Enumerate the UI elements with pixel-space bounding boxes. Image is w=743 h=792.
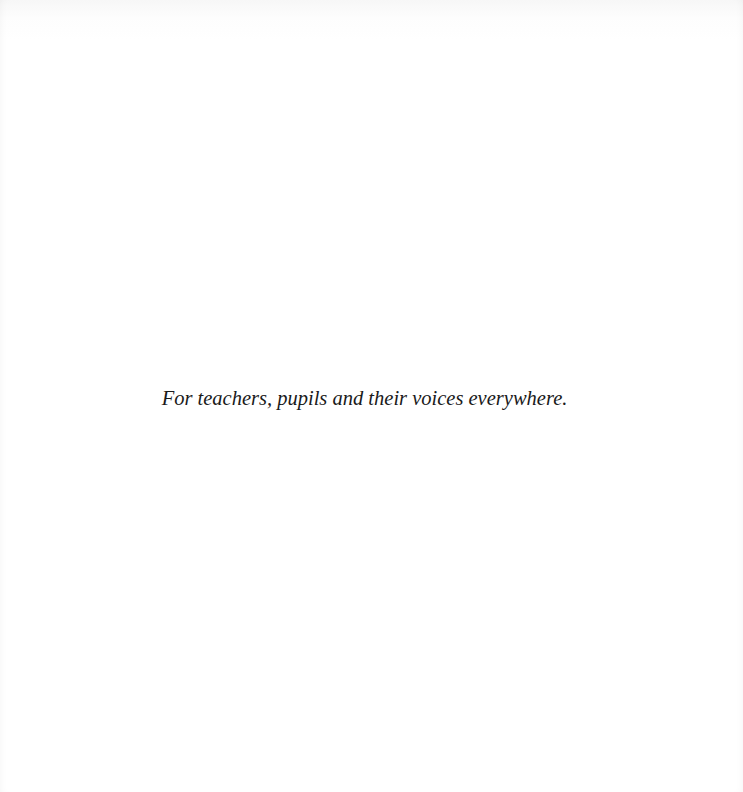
- dedication-text: For teachers, pupils and their voices ev…: [0, 385, 743, 411]
- document-page: For teachers, pupils and their voices ev…: [0, 0, 743, 792]
